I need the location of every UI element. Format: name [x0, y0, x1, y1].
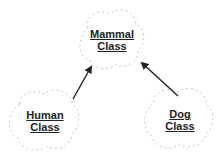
- mammal-label-line1: Mammal: [82, 28, 142, 40]
- human-label-line1: Human: [15, 109, 75, 121]
- arrow-human-to-mammal: [73, 67, 91, 99]
- dog-class-label: Dog Class: [150, 108, 210, 132]
- mammal-class-label: Mammal Class: [82, 28, 142, 52]
- dog-label-line1: Dog: [150, 108, 210, 120]
- diagram-canvas: [0, 0, 220, 161]
- arrow-dog-to-mammal: [142, 63, 178, 96]
- human-class-label: Human Class: [15, 109, 75, 133]
- dog-label-line2: Class: [150, 120, 210, 132]
- mammal-label-line2: Class: [82, 40, 142, 52]
- human-label-line2: Class: [15, 121, 75, 133]
